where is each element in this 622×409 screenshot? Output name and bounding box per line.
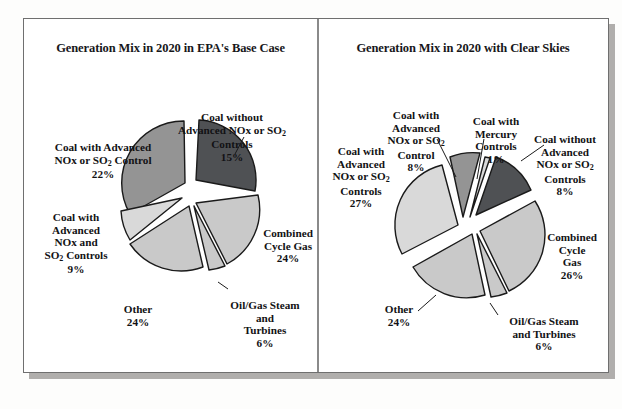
pct-coal-adv-and-base: 9% (28, 263, 124, 276)
pct-coal-adv-or-base: 22% (32, 168, 174, 181)
label-oil-gas-base: Oil/Gas Steam and Turbines 6% (210, 299, 320, 349)
pct-oil-gas-base: 6% (210, 337, 320, 350)
label-oil-gas-cs: Oil/Gas Steam and Turbines 6% (486, 315, 602, 353)
pct-combined-cycle-cs: 26% (534, 269, 610, 282)
panel-clear-skies: Generation Mix in 2020 with Clear Skies (318, 19, 608, 372)
pie-chart-clear-skies: Coal with Advanced NOx or SO2 Control 8%… (318, 19, 608, 372)
pie-chart-base-case: Coal without Advanced NOx or SO2 Control… (24, 19, 317, 372)
pct-coal-adv-or-controls-cs: 27% (318, 197, 404, 210)
label-coal-adv-or-controls-cs: Coal with Advanced NOx or SO2 Controls 2… (318, 145, 404, 210)
pct-coal-without-base: 15% (156, 151, 308, 164)
label-other-cs: Other 24% (370, 303, 428, 328)
label-combined-cycle-cs: Combined Cycle Gas 26% (534, 231, 610, 281)
slice-other-24-cs[interactable] (413, 234, 485, 298)
label-coal-without-base: Coal without Advanced NOx or SO2 Control… (156, 111, 308, 163)
pct-other-cs: 24% (370, 316, 428, 329)
pct-other-base: 24% (108, 316, 168, 329)
panel-base-case: Generation Mix in 2020 in EPA's Base Cas… (24, 19, 317, 372)
slice-coal-adv-or-controls-27[interactable] (395, 165, 458, 254)
figure-frame: Generation Mix in 2020 in EPA's Base Cas… (23, 18, 609, 373)
leader-oil-gas-base (218, 282, 228, 289)
label-coal-adv-and-base: Coal with Advanced NOx and SO2 Controls … (28, 211, 124, 276)
label-coal-without-cs: Coal without Advanced NOx or SO2 Control… (522, 133, 608, 198)
label-other-base: Other 24% (108, 303, 168, 328)
leader-oil-gas-cs (490, 303, 498, 315)
label-coal-adv-or-base: Coal with Advanced NOx or SO2 Control 22… (32, 141, 174, 181)
cutoff-header-text (28, 0, 238, 5)
pct-oil-gas-cs: 6% (486, 340, 602, 353)
pct-coal-without-cs: 8% (522, 185, 608, 198)
